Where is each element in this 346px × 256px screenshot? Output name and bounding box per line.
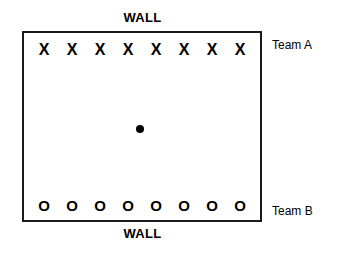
player-marker: X xyxy=(64,41,80,59)
player-marker: X xyxy=(148,41,164,59)
player-marker: O xyxy=(176,197,192,215)
player-marker: X xyxy=(176,41,192,59)
player-marker: X xyxy=(232,41,248,59)
team-a-player-row: X X X X X X X X xyxy=(26,38,258,62)
player-marker: O xyxy=(148,197,164,215)
player-marker: O xyxy=(204,197,220,215)
player-marker: X xyxy=(204,41,220,59)
player-marker: O xyxy=(232,197,248,215)
player-marker: X xyxy=(92,41,108,59)
player-marker: O xyxy=(120,197,136,215)
team-b-label: Team B xyxy=(272,204,313,218)
player-marker: O xyxy=(64,197,80,215)
team-a-label: Team A xyxy=(272,38,312,52)
center-ball-icon xyxy=(136,125,144,133)
diagram-canvas: WALL X X X X X X X X O O O O O O O O WAL… xyxy=(0,0,346,256)
player-marker: O xyxy=(36,197,52,215)
field-boundary: X X X X X X X X O O O O O O O O xyxy=(22,31,262,222)
wall-label-bottom: WALL xyxy=(0,227,285,241)
player-marker: X xyxy=(120,41,136,59)
player-marker: X xyxy=(36,41,52,59)
team-b-player-row: O O O O O O O O xyxy=(26,194,258,218)
wall-label-top: WALL xyxy=(0,11,285,25)
player-marker: O xyxy=(92,197,108,215)
